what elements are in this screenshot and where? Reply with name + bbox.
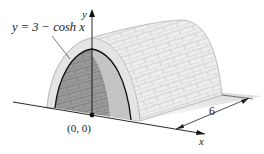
y-axis-label: y <box>82 9 87 20</box>
label-leader-line <box>52 36 70 59</box>
origin-point <box>90 113 95 118</box>
length-dimension-label: 6 <box>209 105 215 117</box>
origin-label: (0, 0) <box>67 123 91 134</box>
curve-equation-label: y = 3 − cosh x <box>12 21 85 34</box>
x-axis-label: x <box>199 136 204 147</box>
tunnel-diagram: y = 3 − cosh x y (0, 0) x 6 <box>0 0 264 154</box>
